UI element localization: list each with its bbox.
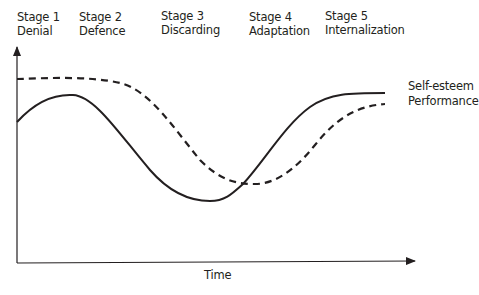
performance-curve [17,78,385,184]
self-esteem-curve [17,93,385,201]
x-axis [17,261,415,263]
x-axis-label: Time [204,268,231,282]
change-curve-diagram [0,0,479,295]
legend-performance: Performance [408,94,479,108]
legend-self-esteem: Self-esteem [408,79,474,93]
